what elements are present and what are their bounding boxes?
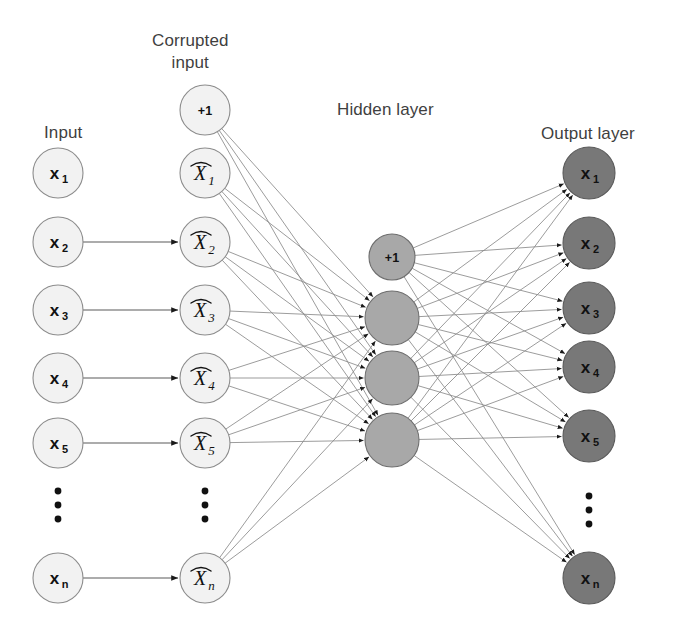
decoder-edge	[417, 377, 563, 431]
ellipsis-dot	[55, 488, 62, 495]
node-label-subscript: 4	[62, 378, 69, 390]
encoder-edge	[222, 399, 372, 560]
node-in-xn[interactable]: xn	[33, 553, 83, 603]
node-cor-x2[interactable]: X2	[180, 217, 230, 267]
label-hidden-layer: Hidden layer	[337, 99, 434, 121]
node-cor-x4[interactable]: X4	[180, 353, 230, 403]
node-label-subscript: 4	[593, 367, 600, 379]
encoder-edge	[222, 129, 373, 297]
encoder-edge	[220, 341, 376, 558]
network-canvas: x1x2x3x4x5xn+1X1X2X3X4X5Xn+1x1x2x3x4x5xn	[0, 0, 691, 639]
encoder-edge	[219, 131, 375, 355]
node-in-x5[interactable]: x5	[33, 418, 83, 468]
node-label-subscript: 2	[62, 242, 68, 254]
node-out-xn[interactable]: xn	[563, 552, 615, 604]
node-label-subscript: 5	[62, 443, 68, 455]
node-out-x1[interactable]: x1	[563, 147, 615, 199]
node-hid-1[interactable]	[365, 291, 419, 345]
node-cor-x5[interactable]: X5	[180, 418, 230, 468]
encoder-edge	[222, 191, 373, 356]
ellipsis-dot	[586, 493, 593, 500]
node-label-subscript: 4	[208, 378, 215, 393]
node-label-base: x	[50, 233, 60, 252]
label-corrupted-input: Corrupted input	[152, 30, 229, 75]
encoder-edge	[217, 132, 378, 415]
node-label-subscript: 5	[208, 443, 215, 458]
ellipsis-dot	[202, 502, 209, 509]
node-label-subscript: 2	[593, 243, 599, 255]
vertical-ellipsis-icon	[586, 493, 593, 528]
node-out-x4[interactable]: x4	[563, 341, 615, 393]
decoder-edge	[419, 437, 562, 440]
node-hid-2[interactable]	[365, 351, 419, 405]
node-label-base: X	[193, 432, 207, 454]
node-label-subscript: 2	[208, 242, 215, 257]
node-label-subscript: n	[593, 578, 600, 590]
vertical-ellipsis-icon	[202, 488, 209, 523]
node-hid-bias[interactable]: +1	[369, 234, 415, 280]
node-label-base: x	[581, 358, 591, 377]
node-label-base: X	[193, 299, 207, 321]
encoder-edge	[225, 188, 370, 300]
node-label-base: X	[193, 231, 207, 253]
decoder-edge	[414, 323, 566, 425]
node-cor-bias[interactable]: +1	[180, 85, 230, 135]
node-circle	[365, 413, 419, 467]
decoder-edge	[417, 253, 563, 309]
node-label-base: X	[193, 567, 207, 589]
decoder-edge	[408, 195, 573, 418]
ellipsis-dot	[202, 516, 209, 523]
node-label-base: x	[581, 427, 591, 446]
node-label-subscript: 1	[208, 173, 215, 188]
vertical-ellipsis-icon	[55, 488, 62, 523]
decoder-edge	[408, 340, 572, 557]
node-circle	[365, 351, 419, 405]
node-in-x2[interactable]: x2	[33, 217, 83, 267]
decoder-edge	[411, 397, 570, 558]
node-hid-3[interactable]	[365, 413, 419, 467]
node-out-x2[interactable]: x2	[563, 217, 615, 269]
node-label-base: X	[193, 162, 207, 184]
ellipsis-dot	[55, 502, 62, 509]
decoder-edge	[419, 369, 562, 377]
node-in-x3[interactable]: x3	[33, 285, 83, 335]
node-label-subscript: 1	[62, 173, 68, 185]
ellipsis-dot	[586, 507, 593, 514]
node-label-base: x	[50, 301, 60, 320]
encoder-edge	[228, 251, 365, 307]
node-label-base: x	[581, 299, 591, 318]
decoder-edge	[417, 317, 563, 369]
denoising-autoencoder-diagram: x1x2x3x4x5xn+1X1X2X3X4X5Xn+1x1x2x3x4x5xn…	[0, 0, 691, 639]
node-cor-x3[interactable]: X3	[180, 285, 230, 335]
node-label-subscript: 3	[62, 310, 68, 322]
node-label-subscript: n	[62, 578, 69, 590]
encoder-edge-group	[217, 129, 378, 564]
node-label-subscript: 5	[593, 436, 599, 448]
node-label-base: x	[50, 569, 60, 588]
decoder-edge	[409, 272, 569, 417]
node-label-subscript: 3	[593, 308, 599, 320]
encoder-edge	[219, 193, 375, 416]
node-cor-xn[interactable]: Xn	[180, 553, 230, 603]
encoder-edge	[229, 387, 365, 434]
encoder-edge	[222, 260, 372, 419]
node-bias-label: +1	[385, 251, 399, 265]
node-label-base: x	[581, 234, 591, 253]
node-out-x5[interactable]: x5	[563, 410, 615, 462]
ellipsis-dot	[586, 521, 593, 528]
node-cor-x1[interactable]: X1	[180, 148, 230, 198]
label-input: Input	[44, 122, 82, 144]
node-label-base: x	[581, 164, 591, 183]
node-label-subscript: 3	[207, 310, 215, 325]
node-circle	[365, 291, 419, 345]
node-out-x3[interactable]: x3	[563, 282, 615, 334]
decoder-edge	[414, 189, 567, 302]
node-in-x4[interactable]: x4	[33, 353, 83, 403]
node-in-x1[interactable]: x1	[33, 148, 83, 198]
decoder-edge	[415, 245, 562, 255]
ellipsis-dot	[202, 488, 209, 495]
node-bias-label: +1	[198, 104, 212, 118]
corruption-arrow-group	[83, 242, 178, 578]
node-label-base: x	[50, 164, 60, 183]
node-label-base: X	[193, 367, 207, 389]
